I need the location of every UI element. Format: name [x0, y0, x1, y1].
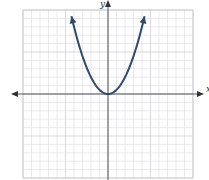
x-axis-left-arrow-icon [11, 91, 18, 97]
y-axis-up-arrow-icon [105, 0, 111, 7]
y-axis-label: y [99, 0, 106, 9]
coordinate-graph: x y [0, 0, 209, 180]
curve-left-arrow-icon [70, 16, 77, 24]
curve-right-arrow-icon [140, 16, 147, 24]
x-axis-right-arrow-icon [197, 91, 204, 97]
x-axis-label: x [206, 84, 209, 94]
